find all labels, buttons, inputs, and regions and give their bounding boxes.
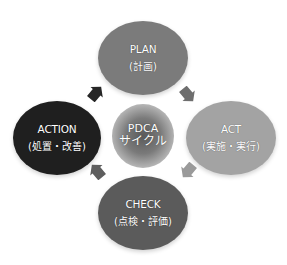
node-plan-title: PLAN xyxy=(130,43,157,56)
node-plan-subtitle: (計画) xyxy=(129,61,157,74)
arrow-down-left-icon xyxy=(179,162,197,180)
node-check: CHECK (点検・評価) xyxy=(98,176,188,250)
node-action-title: ACTION xyxy=(38,123,77,136)
node-act: ACT (実施・実行) xyxy=(186,101,276,175)
arrow-up-right-icon xyxy=(87,84,105,102)
node-check-subtitle: (点検・評価) xyxy=(114,216,172,229)
center-label-line2: サイクル xyxy=(119,135,167,149)
node-plan: PLAN (計画) xyxy=(98,21,188,95)
node-check-title: CHECK xyxy=(125,198,160,211)
node-act-title: ACT xyxy=(221,123,241,136)
node-act-subtitle: (実施・実行) xyxy=(202,141,260,154)
node-action-subtitle: (処置・改善) xyxy=(28,141,86,154)
center-label: PDCA サイクル xyxy=(112,104,174,168)
pdca-cycle-diagram: PLAN (計画) ACT (実施・実行) CHECK (点検・評価) ACTI… xyxy=(0,0,287,265)
arrow-up-left-icon xyxy=(88,162,106,180)
arrow-down-right-icon xyxy=(179,86,197,104)
